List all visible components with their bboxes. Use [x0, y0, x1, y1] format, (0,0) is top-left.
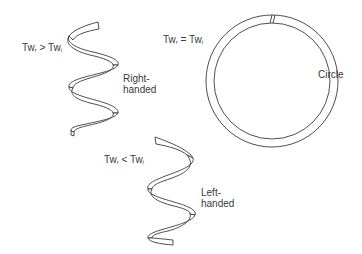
relation-rhs: Tw — [189, 34, 202, 45]
right-handed-label: Right- handed — [123, 73, 156, 95]
relation-operator: > — [40, 42, 46, 53]
right-helix-relation: Twr > Twi — [22, 42, 62, 56]
relation-rhs-subscript: i — [61, 47, 62, 53]
label-line-1: Right- — [123, 73, 156, 84]
relation-rhs-subscript: i — [143, 159, 144, 165]
label-line-2: handed — [123, 84, 156, 95]
label-line-1: Left- — [201, 187, 234, 198]
relation-operator: < — [122, 154, 128, 165]
circular-ribbon — [206, 15, 338, 147]
relation-lhs: Tw — [22, 42, 35, 53]
left-helix-relation: Twr < Twi — [104, 154, 144, 168]
relation-lhs-subscript: r — [117, 159, 119, 165]
left-handed-label: Left- handed — [201, 187, 234, 209]
left-handed-helix — [148, 137, 196, 245]
relation-lhs-subscript: r — [35, 47, 37, 53]
relation-lhs: Tw — [163, 34, 176, 45]
relation-lhs-subscript: r — [176, 39, 178, 45]
circle-relation: Twr = Twi — [163, 34, 203, 48]
relation-operator: = — [181, 34, 187, 45]
relation-rhs: Tw — [130, 154, 143, 165]
right-handed-helix — [68, 22, 119, 136]
relation-rhs-subscript: i — [202, 39, 203, 45]
label-line-2: handed — [201, 198, 234, 209]
circle-label: Circle — [318, 69, 344, 80]
relation-rhs: Tw — [48, 42, 61, 53]
relation-lhs: Tw — [104, 154, 117, 165]
